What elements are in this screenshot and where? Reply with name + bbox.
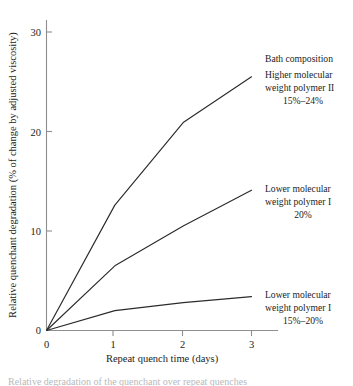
annotation-middle-line1: Lower molecular bbox=[265, 183, 332, 194]
annotation-top-line2: Higher molecular bbox=[265, 69, 333, 80]
annotation-middle-line2: weight polymer I bbox=[265, 196, 331, 207]
y-tick-label-20: 20 bbox=[31, 127, 42, 138]
annotation-top-line3: weight polymer II bbox=[265, 82, 334, 93]
annotation-top-line1: Bath composition bbox=[265, 53, 333, 64]
x-axis-title: Repeat quench time (days) bbox=[106, 353, 219, 365]
x-tick-label-0: 0 bbox=[44, 339, 49, 350]
y-tick-label-0: 0 bbox=[36, 325, 41, 336]
series-line-top bbox=[47, 77, 252, 331]
annotation-middle-line3: 20% bbox=[294, 209, 312, 220]
annotation-bottom-line3: 15%–20% bbox=[283, 315, 323, 326]
y-tick-label-30: 30 bbox=[31, 27, 42, 38]
x-tick-label-3: 3 bbox=[249, 339, 254, 350]
annotation-bottom-line1: Lower molecular bbox=[265, 289, 332, 300]
series-line-middle bbox=[47, 190, 252, 330]
y-tick-label-10: 10 bbox=[31, 226, 42, 237]
annotation-top-line4: 15%–24% bbox=[283, 95, 323, 106]
figure-caption-partial: Relative degradation of the quenchant ov… bbox=[8, 376, 348, 386]
y-axis-title: Relative quenchant degradation (% of cha… bbox=[7, 32, 19, 318]
x-tick-label-2: 2 bbox=[180, 339, 185, 350]
annotation-bottom-line2: weight polymer I bbox=[265, 302, 331, 313]
x-tick-label-1: 1 bbox=[110, 339, 115, 350]
